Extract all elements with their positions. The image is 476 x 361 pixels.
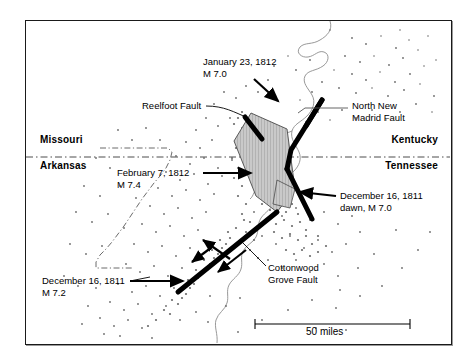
annotation-reelfoot-fault: Reelfoot Fault: [142, 100, 201, 112]
state-boundary-bootheel: [96, 148, 172, 268]
leader-north-new-madrid-fault: [298, 108, 348, 113]
leader-jan-23-1812: [254, 79, 278, 101]
annotation-north-new-madrid-line2: Madrid Fault: [352, 112, 405, 124]
cottonwood-grove-fault-line: [178, 212, 277, 292]
annotation-feb-7-1812-line2: M 7.4: [117, 179, 141, 191]
state-label-kentucky: Kentucky: [330, 134, 438, 146]
annotation-dec-16-dawn-line2: dawn, M 7.0: [340, 202, 392, 214]
annotation-jan-23-1812-line1: January 23, 1812: [203, 56, 276, 68]
state-label-arkansas: Arkansas: [40, 160, 87, 172]
state-label-tennessee: Tennessee: [330, 160, 438, 172]
scale-bar-label: 50 miles: [306, 326, 343, 337]
annotation-dec-16-1811-line2: M 7.2: [42, 287, 66, 299]
leader-dec-16-dawn: [300, 192, 336, 196]
annotation-feb-7-1812-line1: February 7, 1812: [117, 167, 189, 179]
map-graphics: [0, 0, 476, 361]
annotation-north-new-madrid-line1: North New: [352, 100, 397, 112]
annotation-cottonwood-grove-line1: Cottonwood: [268, 262, 319, 274]
annotation-dec-16-1811-line1: December 16, 1811: [42, 275, 125, 287]
annotation-cottonwood-grove-line2: Grove Fault: [268, 274, 318, 286]
annotation-dec-16-dawn-line1: December 16, 1811: [340, 190, 423, 202]
state-label-missouri: Missouri: [40, 134, 83, 146]
figure-root: Missouri Arkansas Kentucky Tennessee Jan…: [0, 0, 476, 361]
annotation-jan-23-1812-line2: M 7.0: [203, 68, 227, 80]
